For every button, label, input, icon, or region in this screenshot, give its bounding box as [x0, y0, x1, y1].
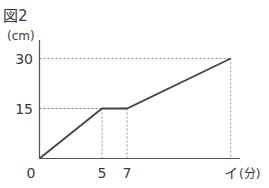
chart-title: 図2 — [3, 7, 28, 25]
x-tick-label-3: イ — [224, 165, 238, 181]
guide-lines — [40, 59, 231, 159]
x-tick-label-1: 5 — [98, 165, 107, 181]
x-tick-label-0: 0 — [27, 165, 36, 181]
chart: 図2 (cm) (分) 1530 057イ — [0, 0, 269, 188]
y-tick-label-0: 15 — [15, 101, 33, 117]
y-tick-label-1: 30 — [15, 51, 33, 67]
y-tick-labels: 1530 — [15, 51, 33, 117]
y-axis-label: (cm) — [7, 29, 35, 43]
x-tick-labels: 057イ — [27, 165, 238, 181]
x-axis-label: (分) — [239, 167, 260, 181]
x-tick-label-2: 7 — [123, 165, 132, 181]
